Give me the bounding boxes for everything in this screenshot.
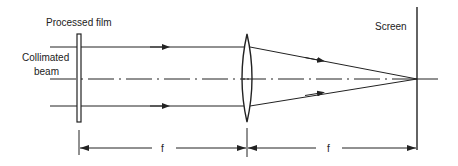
- label-processed-film: Processed film: [46, 17, 112, 28]
- processed-film-plate: [77, 34, 81, 122]
- diagram-svg: Processed film Collimated beam Screen f …: [0, 0, 458, 166]
- optics-diagram: Processed film Collimated beam Screen f …: [0, 0, 458, 166]
- upper-converge-arrow-icon: [305, 58, 321, 61]
- label-collimated: Collimated: [22, 52, 69, 63]
- label-focal-length-2: f: [327, 143, 330, 154]
- upper-ray-out: [250, 47, 417, 79]
- label-beam: beam: [34, 66, 59, 77]
- lower-ray-out: [250, 79, 417, 106]
- converging-rays: [250, 47, 417, 106]
- label-focal-length-1: f: [161, 143, 164, 154]
- label-screen: Screen: [375, 21, 407, 32]
